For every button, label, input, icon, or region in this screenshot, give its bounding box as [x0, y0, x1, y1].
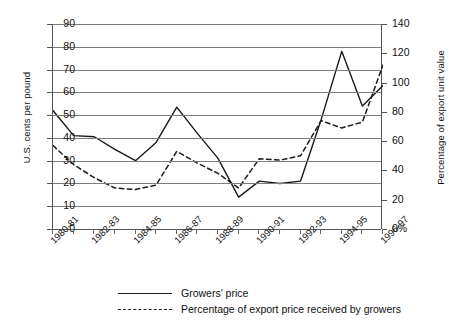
series-line-2: [53, 65, 383, 189]
chart-legend: Growers' price Percentage of export pric…: [118, 285, 401, 317]
y-axis-right-tick: [382, 200, 387, 201]
y-axis-left-tick-label: 40: [35, 131, 75, 143]
legend-label-percentage-export-price: Percentage of export price received by g…: [181, 303, 401, 315]
gridline: [53, 206, 381, 207]
y-axis-left-tick-label: 80: [35, 40, 75, 52]
y-axis-left-tick: [47, 161, 52, 162]
y-axis-left-tick: [47, 92, 52, 93]
legend-item-growers-price: Growers' price: [118, 285, 401, 301]
y-axis-left-tick-label: 30: [35, 154, 75, 166]
y-axis-left-tick-label: 70: [35, 63, 75, 75]
y-axis-right-tick-label: 20: [392, 193, 438, 205]
gridline: [53, 183, 381, 184]
y-axis-left-tick: [47, 70, 52, 71]
gridline: [53, 161, 381, 162]
x-axis-tick: [196, 229, 197, 234]
y-axis-left-tick-label: 50: [35, 108, 75, 120]
gridline: [53, 47, 381, 48]
y-axis-right-tick: [382, 83, 387, 84]
y-axis-left-tick: [47, 206, 52, 207]
gridline: [53, 115, 381, 116]
y-axis-left-tick-label: 10: [35, 199, 75, 211]
gridline: [53, 138, 381, 139]
x-axis-tick: [73, 229, 74, 234]
y-axis-right-tick-label: 120: [392, 46, 438, 58]
y-axis-right-tick-label: 40: [392, 163, 438, 175]
x-axis-tick: [279, 229, 280, 234]
legend-label-growers-price: Growers' price: [181, 287, 248, 299]
y-axis-left-tick-label: 90: [35, 17, 75, 29]
x-axis-tick: [238, 229, 239, 234]
y-axis-right-tick-label: 60: [392, 134, 438, 146]
x-axis-tick: [114, 229, 115, 234]
line-chart: U.S. cents per pound Percentage of expor…: [0, 0, 460, 329]
legend-swatch-dashed: [118, 304, 172, 314]
y-axis-right-tick: [382, 53, 387, 54]
x-axis-tick: [361, 229, 362, 234]
y-axis-right-tick-label: 80: [392, 105, 438, 117]
legend-item-percentage-export-price: Percentage of export price received by g…: [118, 301, 401, 317]
y-axis-right-tick-label: 100: [392, 76, 438, 88]
y-axis-left-tick-label: 20: [35, 176, 75, 188]
x-axis-tick: [320, 229, 321, 234]
x-axis-tick: [155, 229, 156, 234]
y-axis-left-tick: [47, 47, 52, 48]
gridline: [53, 70, 381, 71]
y-axis-left-tick: [47, 183, 52, 184]
legend-swatch-solid: [118, 288, 172, 298]
series-line-1: [53, 51, 383, 197]
y-axis-left-tick: [47, 24, 52, 25]
series-layer: [53, 24, 383, 229]
plot-area: [52, 24, 382, 229]
y-axis-left-tick-label: 60: [35, 85, 75, 97]
gridline: [53, 24, 381, 25]
y-axis-left-tick: [47, 115, 52, 116]
y-axis-left-title: U.S. cents per pound: [21, 43, 32, 193]
y-axis-right-tick: [382, 170, 387, 171]
y-axis-right-tick: [382, 112, 387, 113]
y-axis-right-tick-label: 140: [392, 17, 438, 29]
y-axis-right-tick: [382, 24, 387, 25]
y-axis-left-tick: [47, 138, 52, 139]
y-axis-right-tick: [382, 141, 387, 142]
gridline: [53, 92, 381, 93]
